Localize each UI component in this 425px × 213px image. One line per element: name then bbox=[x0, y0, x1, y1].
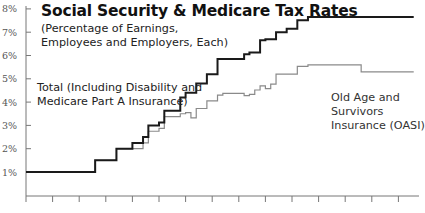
y-tick-label: 7% bbox=[2, 27, 17, 38]
y-tick-label: 5% bbox=[2, 73, 17, 84]
chart-title: Social Security & Medicare Tax Rates bbox=[41, 2, 357, 20]
y-tick-label: 8% bbox=[2, 3, 17, 14]
total-label-line-2: Medicare Part A Insurance) bbox=[37, 95, 202, 109]
total-series-label: Total (Including Disability and Medicare… bbox=[37, 81, 202, 109]
subtitle-line-1: (Percentage of Earnings, bbox=[41, 22, 228, 36]
x-axis bbox=[26, 196, 419, 202]
y-tick-label: 6% bbox=[2, 50, 17, 61]
y-axis: 1%2%3%4%5%6%7%8% bbox=[2, 3, 31, 196]
subtitle-line-2: Employees and Employers, Each) bbox=[41, 36, 228, 50]
oasi-label-line-3: Insurance (OASI) bbox=[331, 119, 425, 133]
y-tick-label: 3% bbox=[2, 120, 17, 131]
chart-subtitle: (Percentage of Earnings, Employees and E… bbox=[41, 22, 228, 50]
total-label-line-1: Total (Including Disability and bbox=[37, 81, 202, 95]
y-tick-label: 2% bbox=[2, 143, 17, 154]
y-tick-label: 1% bbox=[2, 167, 17, 178]
oasi-label-line-2: Survivors bbox=[331, 105, 425, 119]
oasi-series-label: Old Age and Survivors Insurance (OASI) bbox=[331, 91, 425, 133]
y-tick-label: 4% bbox=[2, 97, 17, 108]
oasi-label-line-1: Old Age and bbox=[331, 91, 425, 105]
